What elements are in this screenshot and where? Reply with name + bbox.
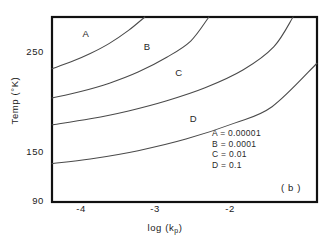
figure-panel: Temp (°K) 250 150 90 -4 -3 -2 log (kp) A… [0, 0, 330, 244]
curve-d [52, 63, 317, 163]
plot-frame [52, 17, 317, 202]
plot-area [0, 0, 330, 244]
legend-entry-a: A = 0.00001 [212, 128, 261, 139]
curve-group [52, 17, 317, 164]
legend: A = 0.00001 B = 0.0001 C = 0.01 D = 0.1 [212, 128, 261, 170]
curve-label-b: B [144, 41, 150, 52]
curve-label-c: C [175, 67, 182, 78]
curve-label-a: A [82, 28, 88, 39]
panel-tag: ( b ) [281, 182, 301, 193]
curve-a [52, 17, 145, 69]
legend-entry-b: B = 0.0001 [212, 139, 261, 150]
legend-entry-d: D = 0.1 [212, 160, 261, 171]
legend-entry-c: C = 0.01 [212, 149, 261, 160]
curve-label-d: D [190, 113, 197, 124]
